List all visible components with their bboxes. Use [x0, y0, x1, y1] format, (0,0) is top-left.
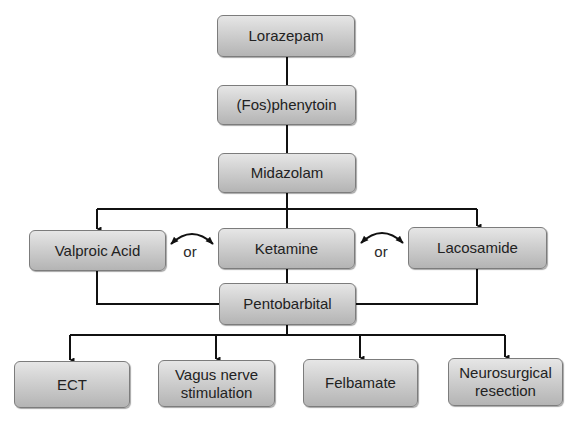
- node-lorazepam: Lorazepam: [217, 15, 355, 57]
- node-label: Midazolam: [251, 164, 324, 182]
- node-label-line1: Neurosurgical: [459, 364, 552, 382]
- node-label-line2: resection: [475, 382, 536, 400]
- node-label: Ketamine: [255, 240, 318, 258]
- node-fosphenytoin: (Fos)phenytoin: [217, 85, 356, 125]
- node-label: Pentobarbital: [243, 295, 331, 313]
- node-neurosurgical-resection: Neurosurgical resection: [448, 358, 563, 406]
- node-felbamate: Felbamate: [303, 359, 418, 407]
- node-midazolam: Midazolam: [218, 153, 356, 193]
- node-label-line2: stimulation: [181, 384, 253, 402]
- or-label-right: or: [366, 243, 396, 260]
- node-valproic-acid: Valproic Acid: [29, 230, 166, 271]
- edge-lacosamide-pentobarbital: [356, 269, 477, 304]
- node-label: Lorazepam: [248, 27, 323, 45]
- node-vagus-nerve-stimulation: Vagus nerve stimulation: [158, 360, 275, 407]
- node-ketamine: Ketamine: [218, 228, 355, 269]
- node-label: ECT: [57, 376, 87, 394]
- node-label: Felbamate: [325, 374, 396, 392]
- node-lacosamide: Lacosamide: [408, 227, 547, 269]
- node-label: Valproic Acid: [55, 242, 141, 260]
- or-label-left: or: [175, 243, 205, 260]
- edge-valproic-pentobarbital: [97, 271, 219, 304]
- curved-double-arrow-right: [361, 233, 403, 243]
- node-label-line1: Vagus nerve: [175, 366, 258, 384]
- node-label: Lacosamide: [437, 239, 518, 257]
- node-ect: ECT: [14, 361, 130, 408]
- node-label: (Fos)phenytoin: [236, 96, 336, 114]
- node-pentobarbital: Pentobarbital: [219, 283, 356, 325]
- flowchart-canvas: Lorazepam (Fos)phenytoin Midazolam Valpr…: [0, 0, 586, 435]
